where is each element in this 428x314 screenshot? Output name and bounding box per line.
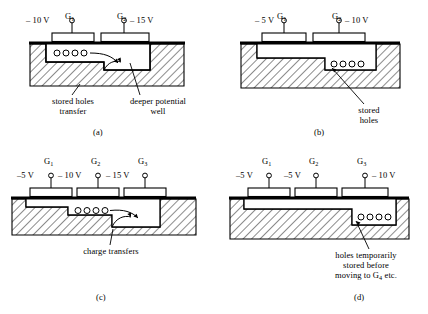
panel-letter-a: (a) — [93, 128, 103, 138]
annotation-stored-holes-transfer: stored holes transfer — [33, 96, 113, 116]
gate-terminal-3 — [143, 173, 148, 178]
gate-label-2: G2 — [309, 157, 318, 167]
gate-label-3-subscript: 3 — [144, 160, 147, 167]
hole — [376, 214, 382, 220]
gate-terminal-3 — [363, 173, 368, 178]
gate-electrode-1 — [262, 33, 306, 42]
gate-electrode-2 — [295, 188, 337, 197]
gate-label-3: G3 — [357, 157, 366, 167]
gate-label-3-subscript: 3 — [363, 160, 366, 167]
gate-label-1: G1 — [65, 12, 74, 22]
hole — [331, 61, 337, 67]
annotation-line: holes temporarily — [312, 250, 420, 260]
gate-label-1-subscript: 1 — [71, 15, 74, 22]
panel-letter-d: (d) — [354, 293, 364, 303]
annotation-line: stored holes — [33, 96, 113, 106]
annotation-deeper-potential-well: deeper potential well — [113, 96, 203, 116]
gate-terminal-1 — [49, 173, 54, 178]
gate-label-2: G2 — [91, 157, 100, 167]
gate-voltage-2: – 15 V — [130, 16, 154, 26]
gate-label-1-subscript: 1 — [283, 15, 286, 22]
hole — [367, 214, 373, 220]
gate-label-1: G1 — [44, 157, 53, 167]
hole — [358, 214, 364, 220]
gate-electrode-1 — [30, 188, 72, 197]
panel-letter-b: (b) — [314, 128, 324, 138]
annotation-holes-temporarily-stored: holes temporarily stored before moving t… — [312, 250, 420, 281]
gate-voltage-3: – 15 V — [106, 171, 130, 181]
gate-electrode-2 — [101, 33, 149, 42]
hole — [72, 50, 78, 56]
hole — [358, 61, 364, 67]
hole — [63, 50, 69, 56]
panel-b: G1 G2 – 5 V – 10 V stored holes (b) — [214, 0, 428, 157]
gate-electrode-2 — [313, 33, 365, 42]
hole — [54, 50, 60, 56]
gate-voltage-3: – 10 V — [372, 171, 396, 181]
hole — [385, 214, 391, 220]
annotation-trailing-text: etc. — [382, 270, 397, 280]
gate-electrode-2 — [77, 188, 119, 197]
gate-label-1-subscript: 1 — [50, 160, 53, 167]
hole — [75, 208, 81, 214]
gate-label-3: G3 — [138, 157, 147, 167]
gate-terminal-2 — [314, 173, 319, 178]
gate-label-2: G2 — [332, 12, 341, 22]
gate-label-1: G1 — [277, 12, 286, 22]
gate-voltage-1: – 5 V — [255, 16, 274, 26]
gate-label-1: G1 — [262, 157, 271, 167]
hole — [84, 208, 90, 214]
gate-label-2-subscript: 2 — [97, 160, 100, 167]
gate-voltage-2: – 10 V — [58, 171, 82, 181]
gate-terminal-2 — [96, 173, 101, 178]
annotation-line: transfer — [33, 106, 113, 116]
gate-label-2-subscript: 2 — [338, 15, 341, 22]
gate-label-1-subscript: 1 — [268, 160, 271, 167]
gate-label-2-subscript: 2 — [123, 15, 126, 22]
gate-electrode-3 — [124, 188, 166, 197]
panel-d-diagram — [214, 157, 428, 314]
gate-electrode-1 — [52, 33, 94, 42]
annotation-line: deeper potential — [113, 96, 203, 106]
annotation-line: moving to G4 etc. — [312, 270, 420, 281]
gate-voltage-1: –5 V — [236, 171, 253, 181]
gate-voltage-2: – 10 V — [345, 16, 369, 26]
gate-voltage-1: –5 V — [17, 171, 34, 181]
panel-c: G1 G2 G3 –5 V – 10 V – 15 V charge trans… — [0, 157, 214, 314]
hole — [102, 208, 108, 214]
annotation-line: stored — [344, 105, 394, 115]
annotation-stored-holes: stored holes — [344, 105, 394, 125]
annotation-line-text: moving to G — [335, 270, 379, 280]
annotation-line: well — [113, 106, 203, 116]
annotation-line: holes — [344, 115, 394, 125]
gate-label-2-subscript: 2 — [315, 160, 318, 167]
panel-d: G1 G2 G3 –5 V –5 V – 10 V holes temporar… — [214, 157, 428, 314]
gate-voltage-2: –5 V — [284, 171, 301, 181]
hole — [340, 61, 346, 67]
gate-electrode-3 — [342, 188, 388, 197]
annotation-charge-transfers: charge transfers — [70, 246, 152, 256]
gate-electrode-1 — [248, 188, 290, 197]
hole — [93, 208, 99, 214]
annotation-line: stored before — [312, 260, 420, 270]
panel-c-diagram — [0, 157, 214, 314]
panel-a: G1 G2 – 10 V – 15 V stored holes transfe… — [0, 0, 214, 157]
gate-label-2: G2 — [117, 12, 126, 22]
gate-terminal-1 — [267, 173, 272, 178]
hole — [349, 61, 355, 67]
gate-voltage-1: – 10 V — [26, 16, 50, 26]
panel-letter-c: (c) — [96, 293, 106, 303]
hole — [81, 50, 87, 56]
annotation-line: charge transfers — [70, 246, 152, 256]
